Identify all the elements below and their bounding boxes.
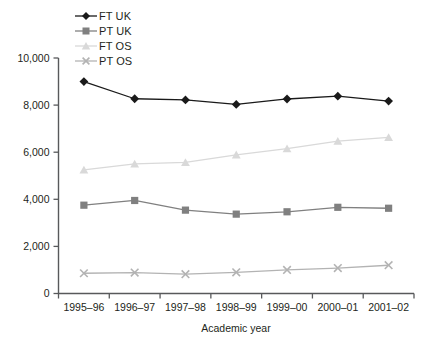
data-point-square: [233, 211, 240, 218]
series-ft-uk: [79, 77, 393, 109]
legend-marker-triangle-icon: [74, 40, 98, 52]
data-point-diamond: [181, 96, 190, 105]
series-pt-os: [80, 261, 392, 278]
legend-item-ft-os[interactable]: FT OS: [74, 38, 224, 53]
y-axis-ticks: 02,0004,0006,0008,00010,000: [17, 52, 58, 300]
x-tick-label: 1999–00: [267, 301, 308, 313]
y-tick-label: 4,000: [23, 193, 49, 205]
x-tick-label: 1995–96: [63, 301, 104, 313]
data-series-group: [79, 77, 393, 278]
legend-label-ft-uk: FT UK: [98, 10, 131, 22]
chart-legend: FT UK PT UK FT OS: [74, 8, 224, 68]
legend-item-ft-uk[interactable]: FT UK: [74, 8, 224, 23]
data-point-diamond: [79, 77, 88, 86]
legend-marker-cross-icon: [74, 55, 98, 67]
data-point-diamond: [384, 97, 393, 106]
data-point-diamond: [333, 92, 342, 101]
data-point-diamond: [130, 94, 139, 103]
legend-label-pt-uk: PT UK: [98, 25, 132, 37]
legend-label-ft-os: FT OS: [98, 40, 132, 52]
data-point-diamond: [232, 100, 241, 109]
x-tick-label: 2001–02: [368, 301, 409, 313]
data-point-square: [182, 207, 189, 214]
series-pt-uk: [80, 197, 392, 218]
data-point-square: [131, 197, 138, 204]
y-tick-label: 8,000: [23, 99, 49, 111]
data-point-diamond: [283, 95, 292, 104]
legend-label-pt-os: PT OS: [98, 55, 132, 67]
series-ft-os: [79, 133, 393, 173]
data-point-square: [385, 205, 392, 212]
y-tick-label: 6,000: [23, 146, 49, 158]
x-axis-ticks: 1995–961996–971997–981998–991999–002000–…: [59, 294, 415, 313]
y-tick-label: 10,000: [17, 52, 49, 64]
x-tick-label: 2000–01: [317, 301, 358, 313]
y-tick-label: 0: [44, 287, 50, 299]
x-axis-title: Academic year: [201, 322, 271, 334]
legend-item-pt-uk[interactable]: PT UK: [74, 23, 224, 38]
data-point-square: [80, 202, 87, 209]
legend-marker-diamond-icon: [74, 10, 98, 22]
y-tick-label: 2,000: [23, 240, 49, 252]
x-tick-label: 1996–97: [114, 301, 155, 313]
legend-marker-square-icon: [74, 25, 98, 37]
x-tick-label: 1998–99: [216, 301, 257, 313]
x-tick-label: 1997–98: [165, 301, 206, 313]
line-chart: 02,0004,0006,0008,00010,000 1995–961996–…: [0, 0, 422, 347]
legend-item-pt-os[interactable]: PT OS: [74, 53, 224, 68]
data-point-square: [283, 208, 290, 215]
data-point-square: [334, 204, 341, 211]
